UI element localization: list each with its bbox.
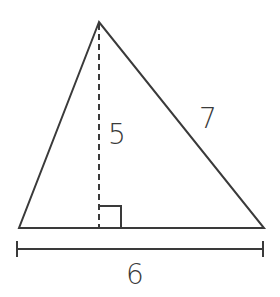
height-label: 5 xyxy=(108,118,126,151)
triangle xyxy=(19,22,264,228)
base-dimension-line xyxy=(17,241,263,257)
base-label: 6 xyxy=(126,258,144,291)
side-label: 7 xyxy=(199,102,217,135)
triangle-diagram: 5 7 6 xyxy=(0,0,280,297)
right-angle-marker xyxy=(99,206,121,228)
